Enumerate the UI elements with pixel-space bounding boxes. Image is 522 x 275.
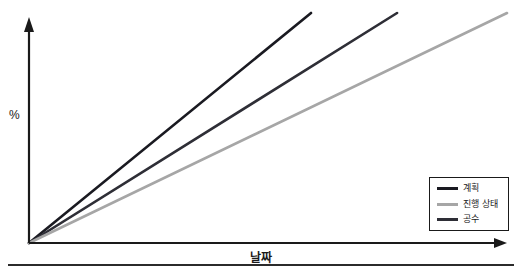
chart-figure: % 날짜 계획진행 상태공수 [0, 0, 522, 275]
legend: 계획진행 상태공수 [429, 177, 509, 231]
legend-label: 진행 상태 [463, 200, 498, 209]
x-axis-arrow-icon [494, 238, 507, 248]
y-axis-arrow-icon [24, 17, 34, 32]
legend-item: 진행 상태 [437, 198, 508, 211]
bottom-divider [8, 264, 514, 266]
legend-label: 공수 [463, 215, 479, 224]
x-axis-label: 날짜 [0, 248, 522, 265]
legend-item: 계획 [437, 182, 508, 195]
legend-label: 계획 [463, 184, 479, 193]
legend-item: 공수 [437, 213, 508, 226]
chart-canvas [0, 0, 522, 275]
legend-line-swatch-icon [437, 187, 458, 190]
legend-line-swatch-icon [437, 218, 458, 221]
series-line-공수 [29, 13, 397, 243]
legend-line-swatch-icon [437, 203, 458, 206]
y-axis-label: % [9, 108, 20, 122]
